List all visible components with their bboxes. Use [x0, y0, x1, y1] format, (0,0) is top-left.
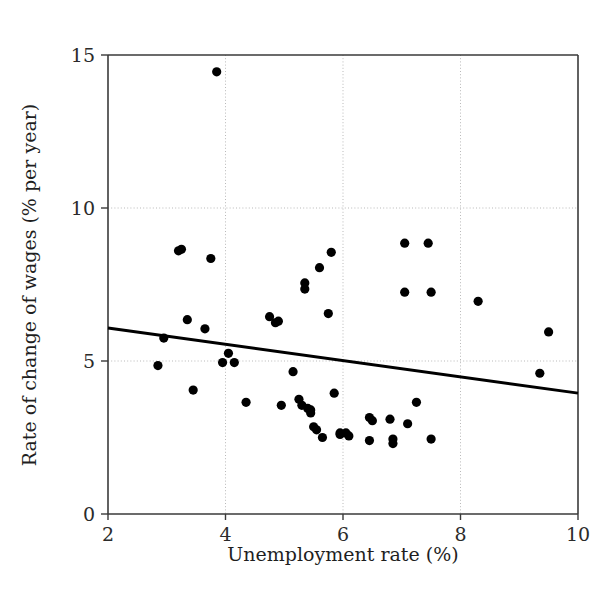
- data-point: [365, 436, 374, 445]
- data-point: [330, 389, 339, 398]
- data-point: [312, 425, 321, 434]
- data-point: [400, 288, 409, 297]
- xtick-label-8: 8: [454, 523, 466, 545]
- data-point: [412, 398, 421, 407]
- data-point: [400, 239, 409, 248]
- data-point: [212, 67, 221, 76]
- data-point: [385, 415, 394, 424]
- data-point: [318, 433, 327, 442]
- xtick-label-6: 6: [337, 523, 349, 545]
- data-point: [200, 324, 209, 333]
- data-point: [427, 288, 436, 297]
- ytick-label-5: 5: [83, 350, 95, 372]
- data-point: [277, 401, 286, 410]
- ytick-label-0: 0: [83, 503, 95, 525]
- data-point: [544, 327, 553, 336]
- data-point: [335, 430, 344, 439]
- plot-canvas: 246810 051015 Unemployment rate (%) Rate…: [0, 0, 612, 606]
- data-point: [306, 405, 315, 414]
- data-point: [427, 434, 436, 443]
- scatter-plot-figure: 246810 051015 Unemployment rate (%) Rate…: [0, 0, 612, 606]
- data-point: [535, 369, 544, 378]
- xtick-label-2: 2: [102, 523, 114, 545]
- data-point: [324, 309, 333, 318]
- data-point: [218, 358, 227, 367]
- data-point: [274, 317, 283, 326]
- data-point: [230, 358, 239, 367]
- xtick-label-4: 4: [219, 523, 231, 545]
- data-point: [344, 431, 353, 440]
- data-point: [288, 367, 297, 376]
- xtick-label-10: 10: [566, 523, 590, 545]
- x-axis-title: Unemployment rate (%): [227, 543, 458, 565]
- data-point: [388, 439, 397, 448]
- data-point: [183, 315, 192, 324]
- data-point: [153, 361, 162, 370]
- ytick-label-10: 10: [71, 197, 95, 219]
- data-point: [174, 246, 183, 255]
- data-point: [206, 254, 215, 263]
- data-point: [474, 297, 483, 306]
- data-point: [424, 239, 433, 248]
- data-point: [315, 263, 324, 272]
- data-point: [241, 398, 250, 407]
- data-point: [300, 284, 309, 293]
- ytick-label-15: 15: [71, 44, 95, 66]
- data-point: [327, 248, 336, 257]
- y-axis-title: Rate of change of wages (% per year): [18, 104, 40, 467]
- data-point: [368, 416, 377, 425]
- data-point: [189, 385, 198, 394]
- data-point: [159, 333, 168, 342]
- data-point: [224, 349, 233, 358]
- data-point: [403, 419, 412, 428]
